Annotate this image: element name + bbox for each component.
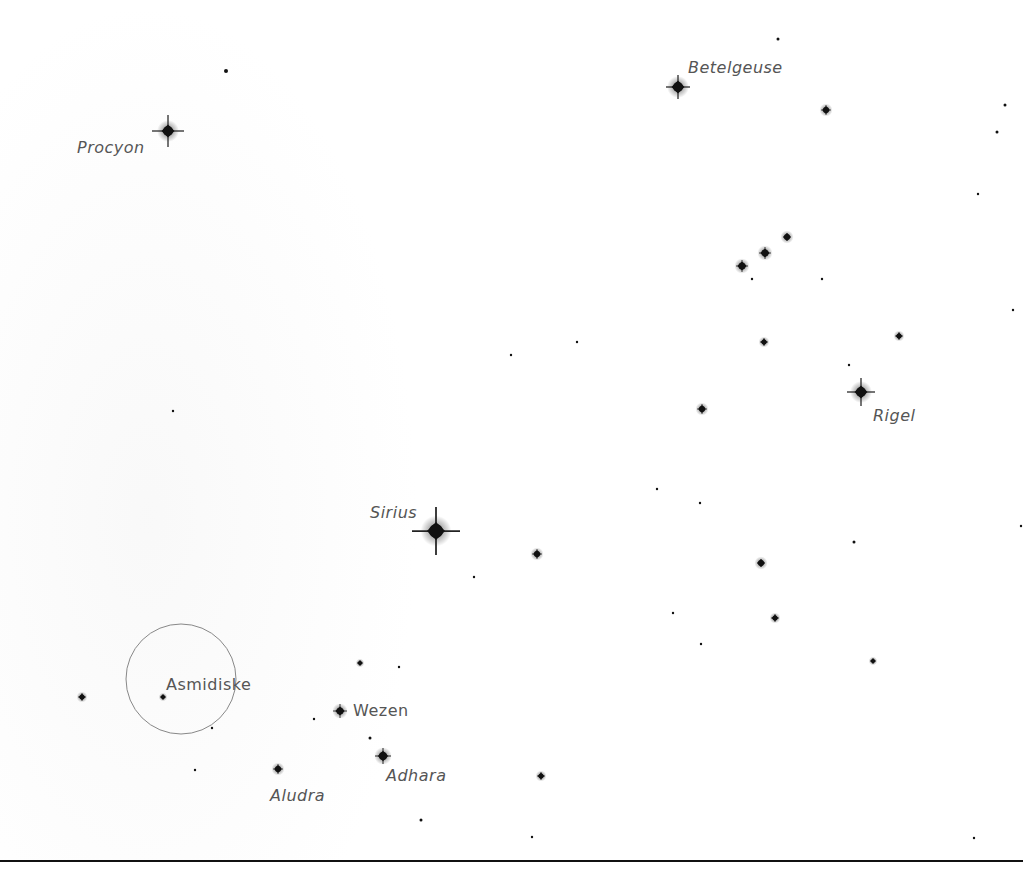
star-icon[interactable] bbox=[356, 659, 365, 668]
star-icon[interactable] bbox=[751, 278, 753, 280]
star-icon[interactable] bbox=[152, 115, 184, 147]
star-icon[interactable] bbox=[576, 341, 578, 343]
star-icon[interactable] bbox=[398, 666, 400, 668]
star-label-asmidiske: Asmidiske bbox=[166, 677, 251, 693]
star-label-wezen: Wezen bbox=[353, 703, 409, 719]
star-icon[interactable] bbox=[473, 576, 475, 578]
star-icon[interactable] bbox=[977, 193, 979, 195]
star-label-rigel: Rigel bbox=[873, 408, 916, 424]
star-icon[interactable] bbox=[271, 762, 284, 775]
star-icon[interactable] bbox=[996, 131, 999, 134]
star-icon[interactable] bbox=[332, 703, 347, 718]
star-icon[interactable] bbox=[699, 502, 701, 504]
star-icon[interactable] bbox=[894, 331, 905, 342]
star-icon[interactable] bbox=[700, 643, 702, 645]
star-label-aludra: Aludra bbox=[270, 788, 325, 804]
star-icon[interactable] bbox=[695, 402, 708, 415]
star-label-adhara: Adhara bbox=[386, 768, 446, 784]
star-icon[interactable] bbox=[530, 547, 543, 560]
bottom-border-line bbox=[0, 860, 1023, 862]
star-label-sirius: Sirius bbox=[370, 505, 417, 521]
star-icon[interactable] bbox=[1004, 104, 1007, 107]
star-icon[interactable] bbox=[973, 837, 975, 839]
star-icon[interactable] bbox=[420, 819, 423, 822]
star-icon[interactable] bbox=[759, 337, 770, 348]
star-icon[interactable] bbox=[754, 556, 767, 569]
star-icon[interactable] bbox=[819, 103, 832, 116]
star-label-betelgeuse: Betelgeuse bbox=[688, 60, 783, 76]
star-icon[interactable] bbox=[847, 378, 875, 406]
star-label-procyon: Procyon bbox=[77, 140, 145, 156]
star-icon[interactable] bbox=[780, 230, 793, 243]
star-icon[interactable] bbox=[369, 737, 372, 740]
star-icon[interactable] bbox=[853, 541, 856, 544]
star-icon[interactable] bbox=[77, 692, 88, 703]
star-icon[interactable] bbox=[666, 75, 690, 99]
star-icon[interactable] bbox=[777, 38, 780, 41]
star-icon[interactable] bbox=[848, 364, 850, 366]
star-icon[interactable] bbox=[194, 769, 196, 771]
star-icon[interactable] bbox=[821, 278, 823, 280]
star-icon[interactable] bbox=[770, 613, 781, 624]
star-icon[interactable] bbox=[412, 507, 460, 555]
star-icon[interactable] bbox=[211, 727, 213, 729]
star-icon[interactable] bbox=[734, 258, 749, 273]
star-icon[interactable] bbox=[1012, 309, 1014, 311]
star-icon[interactable] bbox=[531, 836, 533, 838]
star-icon[interactable] bbox=[224, 69, 228, 73]
star-icon[interactable] bbox=[172, 410, 174, 412]
star-icon[interactable] bbox=[313, 718, 315, 720]
star-icon[interactable] bbox=[536, 771, 547, 782]
star-chart[interactable] bbox=[0, 0, 1023, 884]
star-icon[interactable] bbox=[1020, 525, 1022, 527]
star-icon[interactable] bbox=[757, 245, 772, 260]
star-icon[interactable] bbox=[510, 354, 512, 356]
star-icon[interactable] bbox=[869, 657, 878, 666]
star-icon[interactable] bbox=[672, 612, 674, 614]
star-icon[interactable] bbox=[656, 488, 658, 490]
star-icon[interactable] bbox=[374, 747, 392, 765]
